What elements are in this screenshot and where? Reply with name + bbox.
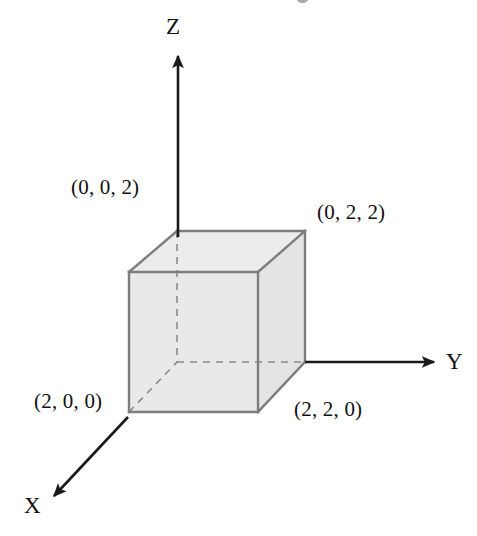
vertex-label-002: (0, 0, 2): [71, 177, 139, 198]
vertex-label-220: (2, 2, 0): [294, 399, 362, 420]
cube-faces: [129, 231, 305, 412]
x-axis-line: [54, 417, 128, 496]
y-axis-label: Y: [446, 350, 463, 373]
x-axis-label: X: [24, 494, 41, 517]
cube-axes-diagram: [0, 0, 477, 536]
vertex-label-022: (0, 2, 2): [317, 202, 385, 223]
figure-canvas: Z Y X (0, 0, 2) (0, 2, 2) (2, 0, 0) (2, …: [0, 0, 477, 536]
z-axis-label: Z: [166, 15, 180, 38]
vertex-label-200: (2, 0, 0): [34, 391, 102, 412]
